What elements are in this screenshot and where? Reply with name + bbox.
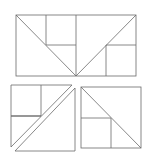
lower-right-triangle	[15, 88, 75, 151]
bottom-right-square-dissection	[81, 87, 141, 148]
bottom-left-split-square	[11, 85, 75, 151]
geometric-dissection-diagram	[0, 0, 149, 158]
top-rectangle-dissection	[16, 15, 136, 76]
